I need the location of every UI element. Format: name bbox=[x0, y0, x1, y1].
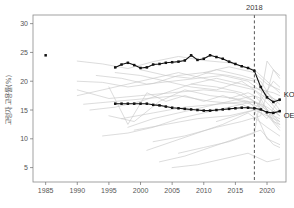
series-marker bbox=[127, 62, 130, 65]
series-marker bbox=[222, 108, 225, 111]
series-marker bbox=[133, 102, 136, 105]
series-marker bbox=[253, 70, 256, 73]
series-marker bbox=[266, 96, 269, 99]
series-marker bbox=[146, 66, 149, 69]
series-marker bbox=[114, 66, 117, 69]
series-marker bbox=[215, 109, 218, 112]
series-marker bbox=[234, 107, 237, 110]
series-marker bbox=[228, 108, 231, 111]
x-axis-tick-label: 2020 bbox=[259, 187, 275, 194]
series-marker bbox=[133, 64, 136, 67]
series-marker bbox=[278, 110, 281, 113]
series-marker bbox=[259, 108, 262, 111]
x-axis-tick-label: 1985 bbox=[38, 187, 54, 194]
series-marker bbox=[215, 56, 218, 59]
series-marker bbox=[266, 111, 269, 114]
series-marker bbox=[240, 106, 243, 109]
series-marker bbox=[177, 107, 180, 110]
y-axis-tick-label: 20 bbox=[20, 78, 28, 85]
series-marker bbox=[228, 60, 231, 63]
series-marker bbox=[158, 63, 161, 65]
series-marker bbox=[259, 86, 262, 89]
series-marker bbox=[203, 58, 206, 61]
series-marker bbox=[190, 108, 193, 111]
series-marker bbox=[272, 101, 275, 104]
series-marker bbox=[114, 102, 117, 105]
series-marker bbox=[146, 102, 149, 105]
x-axis-tick-label: 2000 bbox=[133, 187, 149, 194]
series-marker bbox=[171, 106, 174, 109]
series-marker bbox=[184, 108, 187, 111]
series-marker bbox=[44, 54, 47, 57]
series-marker bbox=[139, 67, 142, 70]
y-axis-title: 고령자 고용률(%) bbox=[4, 75, 13, 126]
series-marker bbox=[234, 63, 237, 65]
y-axis-tick-label: 25 bbox=[20, 49, 28, 56]
series-marker bbox=[253, 107, 256, 110]
y-axis-tick-label: 30 bbox=[20, 20, 28, 27]
series-marker bbox=[196, 59, 199, 62]
series-marker bbox=[139, 102, 142, 105]
x-axis-tick-label: 2015 bbox=[228, 187, 244, 194]
series-marker bbox=[177, 60, 180, 63]
series-marker bbox=[120, 63, 123, 66]
reference-year-label: 2018 bbox=[246, 3, 263, 12]
series-marker bbox=[158, 104, 161, 107]
series-marker bbox=[278, 98, 281, 101]
x-axis-tick-label: 1995 bbox=[101, 187, 117, 194]
series-marker bbox=[165, 62, 168, 65]
series-marker bbox=[247, 67, 250, 70]
y-axis-tick-label: 15 bbox=[20, 107, 28, 114]
line-chart: 2018 19851990199520002005201020152020510… bbox=[0, 0, 294, 208]
series-marker bbox=[190, 54, 193, 57]
series-marker bbox=[209, 54, 212, 57]
series-marker bbox=[209, 109, 212, 112]
series-marker bbox=[184, 59, 187, 62]
x-axis-tick-label: 2010 bbox=[196, 187, 212, 194]
series-marker bbox=[247, 106, 250, 109]
series-marker bbox=[272, 112, 275, 115]
series-marker bbox=[120, 102, 123, 105]
series-marker bbox=[203, 109, 206, 112]
chart-container: 2018 19851990199520002005201020152020510… bbox=[0, 0, 294, 208]
series-marker bbox=[222, 58, 225, 61]
series-marker bbox=[152, 104, 155, 107]
series-marker bbox=[165, 105, 168, 108]
y-axis-tick-label: 5 bbox=[24, 164, 28, 171]
series-marker bbox=[127, 102, 130, 105]
x-axis-tick-label: 2005 bbox=[164, 187, 180, 194]
series-label-kor: KOR bbox=[284, 90, 294, 99]
series-label-oecd: OECD bbox=[284, 111, 294, 120]
series-marker bbox=[152, 63, 155, 66]
x-axis-tick-label: 1990 bbox=[69, 187, 85, 194]
y-axis-tick-label: 10 bbox=[20, 135, 28, 142]
series-marker bbox=[240, 65, 243, 68]
series-marker bbox=[196, 109, 199, 112]
series-marker bbox=[171, 61, 174, 64]
